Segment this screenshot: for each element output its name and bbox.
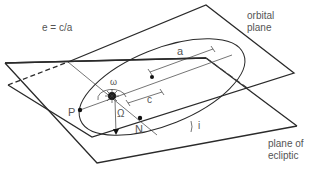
orbit-ellipse [66,19,258,155]
line-of-nodes [68,58,250,135]
ascending-node-longitude-label: Ω [117,108,125,119]
orbital-plane-label-2: plane [247,22,272,33]
semi-major-axis-label: a [177,45,184,57]
ascending-node-point [138,116,142,120]
ecliptic-plane-label-2: ecliptic [268,150,299,161]
inclination-label: i [198,120,200,131]
inclination-arc [191,121,192,132]
omega-label: ω [110,77,117,87]
periapsis-label: P [68,106,75,118]
orbit-center-point [150,75,154,79]
periapsis-point [78,108,82,112]
sun-icon [105,89,119,103]
arrow-head-icon [113,129,119,135]
focal-distance-label: c [147,94,152,105]
ecliptic-plane-label-1: plane of [268,138,304,149]
orbital-plane-label-1: orbital [247,10,274,21]
eccentricity-label: e = c/a [42,22,73,33]
ascending-node-label: N [135,123,143,135]
node-direction-arrow [115,100,116,133]
major-axis [80,55,232,110]
orbital-elements-diagram: e = c/a orbital plane plane of ecliptic … [0,0,311,175]
